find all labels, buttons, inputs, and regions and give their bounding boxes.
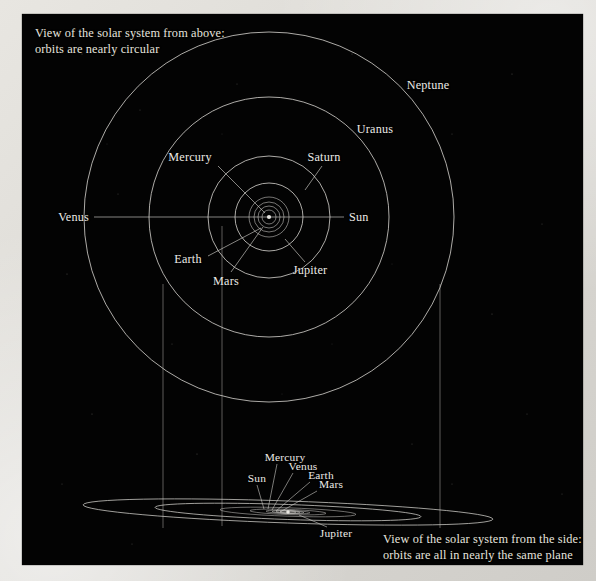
side-view-label-sun: Sun <box>248 472 266 484</box>
top-view-label-earth: Earth <box>174 252 201 267</box>
sun-marker-top <box>267 215 271 219</box>
orbit-canvas <box>22 14 583 565</box>
top-view-label-sun: Sun <box>349 210 369 225</box>
leader-line-jupiter <box>285 239 305 262</box>
side-leader-line-mercury <box>268 464 277 509</box>
top-view-label-saturn: Saturn <box>307 150 340 165</box>
sun-marker-side <box>286 510 290 514</box>
top-view-label-uranus: Uranus <box>357 122 393 137</box>
diagram-plate: View of the solar system from above: orb… <box>22 14 583 565</box>
side-view-label-mars: Mars <box>319 478 343 490</box>
top-view-label-mars: Mars <box>213 274 239 289</box>
caption-side-view: View of the solar system from the side: … <box>383 532 582 563</box>
top-view-label-venus: Venus <box>58 210 89 225</box>
side-leader-line-earth <box>276 482 310 511</box>
leader-line-mercury <box>218 166 265 213</box>
top-view-label-jupiter: Jupiter <box>293 263 328 278</box>
side-view-label-jupiter: Jupiter <box>320 527 352 539</box>
figure-page: View of the solar system from above: orb… <box>0 0 596 581</box>
caption-top-view: View of the solar system from above: orb… <box>35 26 225 57</box>
side-leader-line-sun <box>257 485 264 509</box>
leader-line-earth <box>208 228 261 256</box>
top-view-label-neptune: Neptune <box>407 78 450 93</box>
top-view-label-mercury: Mercury <box>168 150 211 165</box>
